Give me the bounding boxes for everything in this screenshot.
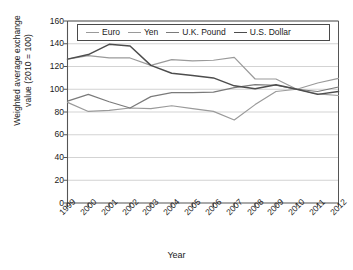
legend-line-swatch-icon [166, 32, 179, 33]
legend-line-swatch-icon [128, 32, 141, 33]
legend-item-euro[interactable]: Euro [82, 28, 124, 37]
series-line-u-k-pound [68, 85, 339, 108]
exchange-rate-line-chart: Weighted average exchange value (2010 = … [0, 0, 353, 270]
x-axis-title: Year [0, 250, 353, 260]
legend-item-u-k-pound[interactable]: U.K. Pound [162, 28, 229, 37]
legend-label: U.S. Dollar [250, 28, 291, 37]
series-line-u-s-dollar [68, 44, 339, 94]
legend-label: Yen [144, 28, 158, 37]
legend-line-swatch-icon [234, 32, 247, 33]
legend-item-u-s-dollar[interactable]: U.S. Dollar [230, 28, 295, 37]
chart-legend: EuroYenU.K. PoundU.S. Dollar [77, 24, 330, 41]
legend-item-yen[interactable]: Yen [124, 28, 162, 37]
series-line-yen [68, 78, 339, 120]
legend-line-swatch-icon [86, 32, 99, 33]
legend-label: Euro [102, 28, 120, 37]
legend-label: U.K. Pound [182, 28, 225, 37]
